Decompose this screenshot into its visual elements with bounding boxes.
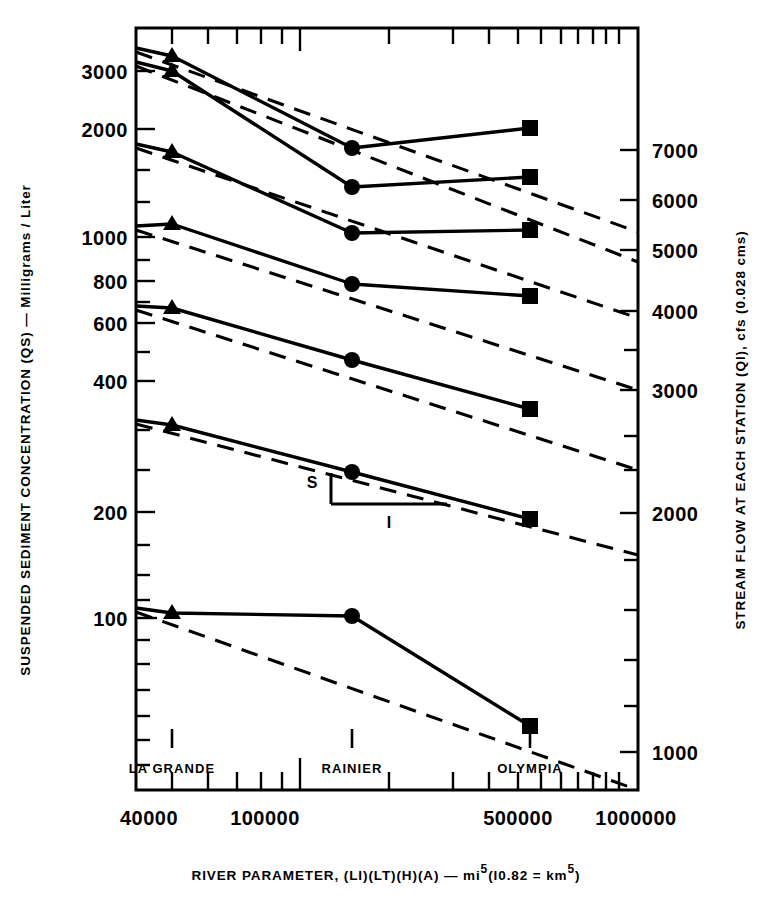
station-label-olympia: OLYMPIA — [497, 761, 563, 776]
x-axis-title-part-a: RIVER PARAMETER, (LI)(LT)(H)(A) — mi — [191, 868, 480, 883]
marker-circle — [344, 225, 360, 241]
left-tick-label: 200 — [93, 502, 128, 524]
marker-circle — [344, 464, 360, 480]
left-tick-label: 100 — [93, 608, 128, 630]
x-axis-title-part-b: (I0.82 = km — [488, 868, 567, 883]
x-axis-title-sup-2: 5 — [568, 862, 576, 876]
bottom-tick-label: 500000 — [483, 807, 553, 829]
marker-circle — [344, 179, 360, 195]
left-tick-label: 2000 — [82, 119, 129, 141]
right-tick-label: 4000 — [652, 301, 699, 323]
slope-rise-label: S — [307, 474, 318, 491]
marker-square — [522, 401, 538, 417]
marker-circle — [344, 140, 360, 156]
marker-square — [522, 511, 538, 527]
marker-square — [522, 222, 538, 238]
marker-square — [522, 169, 538, 185]
right-tick-label: 6000 — [652, 190, 699, 212]
station-label-rainier: RAINIER — [321, 761, 382, 776]
slope-run-label: I — [387, 514, 391, 531]
marker-circle — [344, 608, 360, 624]
y-axis-left-title: SUSPENDED SEDIMENT CONCENTRATION (QS) — … — [18, 184, 33, 676]
x-axis-title-sup-1: 5 — [481, 862, 489, 876]
marker-square — [522, 288, 538, 304]
marker-square — [522, 120, 538, 136]
left-tick-label: 600 — [93, 313, 128, 335]
marker-circle — [344, 352, 360, 368]
right-tick-label: 5000 — [652, 240, 699, 262]
station-labels: LA GRANDE RAINIER OLYMPIA — [129, 761, 563, 776]
chart-figure: S I 3000 2000 1000 800 600 400 200 100 7… — [0, 0, 772, 911]
chart-svg: S I 3000 2000 1000 800 600 400 200 100 7… — [0, 0, 772, 911]
station-label-la-grande: LA GRANDE — [129, 761, 216, 776]
left-tick-label: 800 — [93, 271, 128, 293]
bottom-tick-label: 1000000 — [595, 807, 676, 829]
left-tick-label: 1000 — [82, 227, 129, 249]
right-tick-label: 3000 — [652, 380, 699, 402]
bottom-tick-label: 100000 — [230, 807, 300, 829]
bottom-tick-label: 40000 — [120, 807, 178, 829]
left-tick-label: 3000 — [82, 61, 129, 83]
left-tick-label: 400 — [93, 371, 128, 393]
right-tick-label: 7000 — [652, 140, 699, 162]
right-tick-label: 1000 — [652, 742, 699, 764]
right-tick-label: 2000 — [652, 503, 699, 525]
x-axis-title-part-c: ) — [575, 868, 580, 883]
marker-circle — [344, 276, 360, 292]
y-axis-right-title: STREAM FLOW AT EACH STATION (QI), cfs (0… — [733, 230, 748, 629]
